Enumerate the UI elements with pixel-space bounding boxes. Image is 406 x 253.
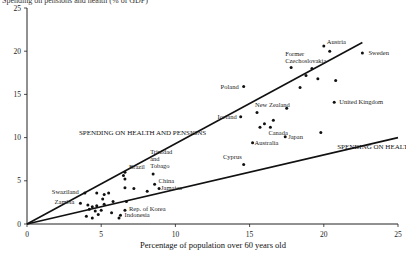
- data-point: [322, 45, 325, 48]
- data-point: [83, 191, 86, 194]
- point-label: Australia: [255, 139, 279, 146]
- point-label: United Kingdom: [339, 98, 383, 105]
- point-label: Poland: [221, 83, 240, 90]
- data-point: [304, 74, 307, 77]
- data-point: [94, 210, 97, 213]
- x-tick-label: 25: [394, 230, 402, 239]
- data-point: [125, 200, 128, 203]
- line-annotation: SPENDING ON HEALTH: [337, 143, 406, 151]
- data-point: [110, 211, 113, 214]
- point-label: and: [150, 155, 160, 162]
- point-label: Iceland: [218, 113, 238, 120]
- data-point: [256, 111, 259, 114]
- point-label: Japan: [288, 133, 304, 140]
- point-label: Brazil: [129, 163, 145, 170]
- data-point: [97, 213, 100, 216]
- data-point: [91, 216, 94, 219]
- data-point: [152, 172, 155, 175]
- data-point: [123, 186, 126, 189]
- data-point: [103, 193, 106, 196]
- data-point: [153, 183, 156, 186]
- data-point: [146, 190, 149, 193]
- point-label: Czechoslovakia: [285, 57, 326, 64]
- point-label: Tobago: [150, 162, 169, 169]
- data-point: [91, 205, 94, 208]
- data-point: [242, 163, 245, 166]
- data-point: [263, 122, 266, 125]
- y-tick-label: 20: [14, 47, 22, 56]
- data-point: [242, 85, 245, 88]
- data-point: [86, 203, 89, 206]
- data-point: [119, 214, 122, 217]
- point-label: New Zealand: [255, 101, 291, 108]
- x-tick-label: 0: [25, 230, 29, 239]
- point-label: Canada: [268, 129, 288, 136]
- point-label: Zambia: [55, 198, 75, 205]
- y-tick-label: 0: [17, 220, 21, 229]
- x-tick-label: 20: [320, 230, 328, 239]
- data-point: [290, 66, 293, 69]
- point-label: Former: [285, 50, 305, 57]
- data-point: [333, 101, 336, 104]
- x-tick-label: 15: [246, 230, 254, 239]
- data-point: [100, 209, 103, 212]
- x-tick-label: 10: [172, 230, 180, 239]
- data-point: [310, 67, 313, 70]
- data-point: [239, 115, 242, 118]
- data-point: [123, 178, 126, 181]
- data-point: [258, 126, 261, 129]
- data-point: [88, 208, 91, 211]
- data-point: [112, 200, 115, 203]
- data-point: [123, 171, 126, 174]
- x-tick-label: 5: [99, 230, 103, 239]
- data-point: [95, 204, 98, 207]
- point-label: Austria: [327, 38, 346, 45]
- y-tick-label: 25: [14, 4, 22, 13]
- data-point: [95, 191, 98, 194]
- point-label: Cyprus: [223, 153, 242, 160]
- point-label: Jamaica: [161, 184, 182, 191]
- y-tick-label: 15: [14, 90, 22, 99]
- data-point: [272, 119, 275, 122]
- data-point: [316, 77, 319, 80]
- data-point: [319, 131, 322, 134]
- y-tick-label: 10: [14, 133, 22, 142]
- y-tick-label: 5: [17, 176, 21, 185]
- data-point: [85, 215, 88, 218]
- point-label: Indonesia: [124, 211, 149, 218]
- x-axis-label: Percentage of population over 60 years o…: [0, 240, 406, 250]
- point-label: Sweden: [368, 49, 389, 56]
- point-label: Swaziland: [52, 188, 80, 195]
- data-point: [328, 50, 331, 53]
- data-point: [132, 187, 135, 190]
- data-point: [79, 202, 82, 205]
- line-annotation: SPENDING ON HEALTH AND PENSIONS: [79, 129, 206, 137]
- data-point: [334, 79, 337, 82]
- data-point: [122, 174, 125, 177]
- data-point: [107, 191, 110, 194]
- point-label: Trinidad: [150, 148, 173, 155]
- data-point: [103, 203, 106, 206]
- data-point: [118, 216, 121, 219]
- point-labels: AustriaSwedenFormerCzechoslovakiaPolandU…: [52, 38, 406, 218]
- data-point: [299, 86, 302, 89]
- data-point: [101, 197, 104, 200]
- data-point: [361, 51, 364, 54]
- scatter-chart: 05101520250510152025 AustriaSwedenFormer…: [0, 0, 406, 253]
